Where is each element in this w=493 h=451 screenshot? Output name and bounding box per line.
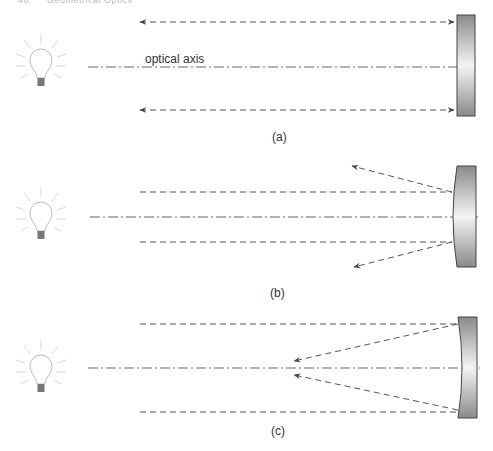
panel-b (16, 166, 479, 267)
light-bulb-icon (16, 34, 66, 86)
light-bulb-icon (16, 187, 66, 239)
optical-axis-label: optical axis (145, 52, 204, 66)
reflected-ray-top-b (352, 166, 452, 192)
concave-mirror (458, 317, 477, 418)
reflected-ray-bottom-c (294, 375, 458, 410)
panel-a-caption: (a) (272, 130, 287, 144)
panel-a (16, 15, 475, 116)
panel-c (16, 317, 480, 418)
panel-c-caption: (c) (271, 424, 285, 438)
convex-mirror (453, 166, 476, 267)
plane-mirror (457, 15, 475, 116)
reflected-ray-top-c (294, 324, 458, 361)
reflected-ray-bottom-b (354, 242, 452, 267)
mirror-diagram (0, 0, 493, 451)
panel-b-caption: (b) (270, 286, 285, 300)
light-bulb-icon (16, 340, 66, 392)
